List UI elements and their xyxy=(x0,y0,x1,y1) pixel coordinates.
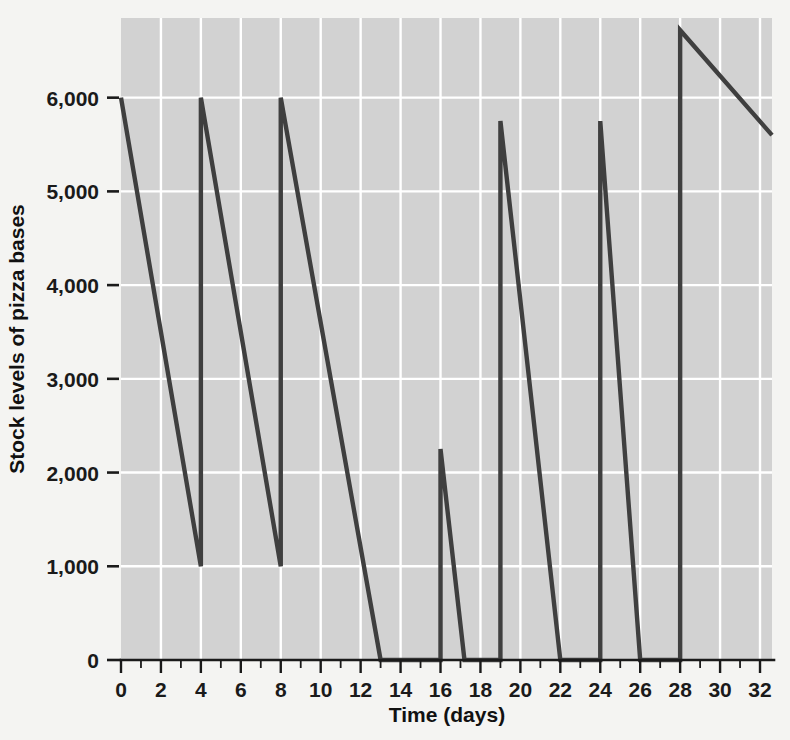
x-tick-label: 22 xyxy=(549,678,572,701)
stock-levels-line-chart: 02468101214161820222426283032 01,0002,00… xyxy=(0,0,790,740)
y-tick-label: 2,000 xyxy=(46,462,99,485)
y-tick-label: 3,000 xyxy=(46,368,99,391)
x-tick-label: 28 xyxy=(668,678,692,701)
x-tick-label: 32 xyxy=(748,678,771,701)
x-tick-label: 30 xyxy=(708,678,731,701)
y-tick-label: 0 xyxy=(87,649,99,672)
y-tick-label: 4,000 xyxy=(46,274,99,297)
x-tick-label: 10 xyxy=(309,678,332,701)
x-tick-label: 2 xyxy=(155,678,167,701)
x-axis-title: Time (days) xyxy=(389,703,505,726)
y-tick-label: 1,000 xyxy=(46,555,99,578)
x-tick-label: 16 xyxy=(429,678,452,701)
y-axis-title: Stock levels of pizza bases xyxy=(5,204,28,474)
x-tick-label: 0 xyxy=(115,678,127,701)
plot-area-background xyxy=(121,18,772,660)
x-tick-label: 12 xyxy=(349,678,372,701)
x-tick-label: 24 xyxy=(589,678,613,701)
chart-figure: 02468101214161820222426283032 01,0002,00… xyxy=(0,0,790,740)
y-tick-label: 5,000 xyxy=(46,180,99,203)
x-tick-label: 26 xyxy=(629,678,652,701)
x-tick-label: 18 xyxy=(469,678,493,701)
x-tick-label: 6 xyxy=(235,678,247,701)
y-tick-label: 6,000 xyxy=(46,87,99,110)
x-tick-label: 4 xyxy=(195,678,207,701)
x-tick-label: 14 xyxy=(389,678,413,701)
x-tick-label: 20 xyxy=(509,678,532,701)
x-tick-label: 8 xyxy=(275,678,287,701)
